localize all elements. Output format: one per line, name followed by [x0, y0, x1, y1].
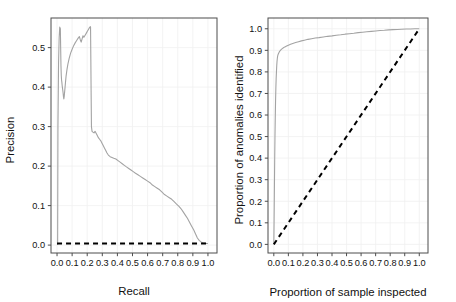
x-tick-label: 0.2 — [81, 258, 94, 268]
lc-x-axis-title: Proportion of sample inspected — [269, 286, 426, 298]
x-tick-label: 0.5 — [340, 258, 353, 268]
x-tick-label: 0.5 — [126, 258, 139, 268]
y-tick-label: 0.0 — [32, 240, 45, 250]
x-tick-label: 0.4 — [326, 258, 339, 268]
figure-container: 0.00.10.20.30.40.50.60.70.80.91.0 0.00.1… — [0, 0, 456, 302]
x-tick-label: 1.0 — [202, 258, 215, 268]
lc-gridlines — [268, 18, 428, 253]
pr-y-axis-title: Precision — [4, 117, 16, 164]
lift-curve-plot: 0.00.10.20.30.40.50.60.70.80.91.0 0.00.1… — [228, 0, 456, 302]
pr-x-axis-title: Recall — [118, 285, 150, 297]
x-tick-label: 0.7 — [369, 258, 382, 268]
lc-panel-border — [268, 18, 428, 253]
x-tick-label: 0.4 — [111, 258, 124, 268]
x-tick-label: 0.0 — [51, 258, 64, 268]
y-tick-label: 0.2 — [249, 197, 262, 207]
pr-x-tick-labels: 0.00.10.20.30.40.50.60.70.80.91.0 — [51, 258, 215, 268]
x-tick-label: 0.9 — [398, 258, 411, 268]
y-tick-label: 0.4 — [32, 82, 45, 92]
x-tick-label: 0.6 — [141, 258, 154, 268]
x-tick-label: 0.8 — [171, 258, 184, 268]
y-tick-label: 0.8 — [249, 67, 262, 77]
y-tick-label: 0.1 — [32, 201, 45, 211]
panel-lift-curve: 0.00.10.20.30.40.50.60.70.80.91.0 0.00.1… — [228, 0, 456, 302]
x-tick-label: 0.0 — [267, 258, 280, 268]
x-tick-label: 0.1 — [282, 258, 295, 268]
x-tick-label: 1.0 — [413, 258, 426, 268]
y-tick-label: 0.6 — [249, 110, 262, 120]
y-tick-label: 0.3 — [249, 175, 262, 185]
x-tick-label: 0.8 — [384, 258, 397, 268]
y-tick-label: 0.4 — [249, 153, 262, 163]
x-tick-label: 0.2 — [297, 258, 310, 268]
y-tick-label: 0.0 — [249, 240, 262, 250]
x-tick-label: 0.7 — [156, 258, 169, 268]
y-tick-label: 0.9 — [249, 46, 262, 56]
x-tick-label: 0.3 — [96, 258, 109, 268]
lc-y-axis-title: Proportion of anomalies identified — [233, 55, 245, 224]
precision-recall-plot: 0.00.10.20.30.40.50.60.70.80.91.0 0.00.1… — [0, 0, 228, 302]
lc-x-tick-labels: 0.00.10.20.30.40.50.60.70.80.91.0 — [267, 258, 425, 268]
y-tick-label: 0.5 — [249, 132, 262, 142]
x-tick-label: 0.9 — [186, 258, 199, 268]
lc-y-tick-labels: 0.00.10.20.30.40.50.60.70.80.91.0 — [249, 24, 262, 250]
y-tick-label: 1.0 — [249, 24, 262, 34]
y-tick-label: 0.2 — [32, 161, 45, 171]
y-tick-label: 0.1 — [249, 218, 262, 228]
pr-y-tick-labels: 0.00.10.20.30.40.5 — [32, 43, 45, 250]
pr-gridlines — [51, 18, 217, 253]
panel-precision-recall: 0.00.10.20.30.40.50.60.70.80.91.0 0.00.1… — [0, 0, 228, 302]
x-tick-label: 0.3 — [311, 258, 324, 268]
y-tick-label: 0.7 — [249, 89, 262, 99]
x-tick-label: 0.1 — [66, 258, 79, 268]
y-tick-label: 0.3 — [32, 122, 45, 132]
pr-panel-border — [51, 18, 217, 253]
x-tick-label: 0.6 — [355, 258, 368, 268]
y-tick-label: 0.5 — [32, 43, 45, 53]
